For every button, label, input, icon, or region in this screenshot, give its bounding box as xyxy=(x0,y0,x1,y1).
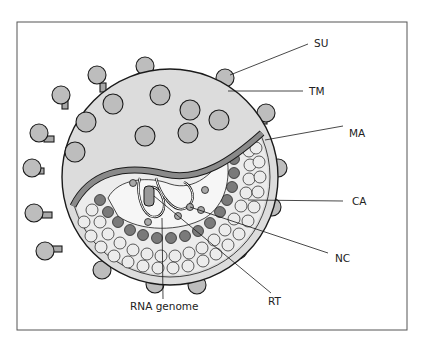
su-leader xyxy=(230,44,308,75)
virion-diagram: SU TM MA CA NC RT RNA genome xyxy=(0,0,423,344)
label-ca: CA xyxy=(352,195,367,207)
rt-enzyme xyxy=(144,186,154,206)
label-rna-genome: RNA genome xyxy=(130,300,199,312)
label-rt: RT xyxy=(268,295,282,307)
ma-leader xyxy=(265,126,343,140)
label-ma: MA xyxy=(349,127,366,139)
label-nc: NC xyxy=(335,252,350,264)
label-su: SU xyxy=(314,37,328,49)
label-tm: TM xyxy=(308,85,324,97)
